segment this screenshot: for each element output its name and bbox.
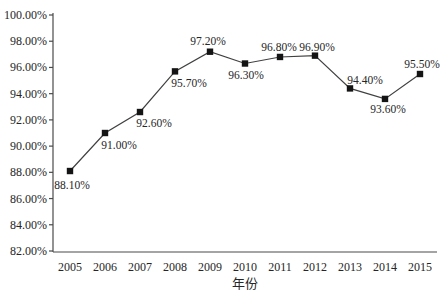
- data-point-marker: [67, 168, 73, 174]
- data-point-marker: [417, 71, 423, 77]
- data-point-label: 92.60%: [136, 117, 172, 129]
- y-tick-label: 98.00%: [10, 34, 47, 48]
- chart-canvas: 100.00%98.00%96.00%94.00%92.00%90.00%88.…: [0, 0, 448, 295]
- data-point-label: 96.90%: [299, 41, 335, 53]
- data-point-marker: [137, 109, 143, 115]
- y-tick-label: 82.00%: [10, 244, 47, 258]
- y-tick-label: 90.00%: [10, 139, 47, 153]
- x-tick-label: 2012: [303, 260, 327, 274]
- data-point-label: 88.10%: [54, 179, 90, 191]
- y-tick-label: 88.00%: [10, 165, 47, 179]
- data-point-label: 93.60%: [370, 103, 406, 115]
- line-chart-figure: 100.00%98.00%96.00%94.00%92.00%90.00%88.…: [0, 0, 448, 295]
- y-tick-label: 92.00%: [10, 113, 47, 127]
- x-tick-label: 2007: [128, 260, 152, 274]
- data-point-marker: [207, 49, 213, 55]
- data-point-label: 95.50%: [404, 58, 440, 70]
- data-point-label: 96.30%: [228, 69, 264, 81]
- data-point-label: 94.40%: [347, 74, 383, 86]
- y-tick-label: 86.00%: [10, 192, 47, 206]
- data-point-marker: [312, 52, 318, 58]
- data-point-marker: [277, 54, 283, 60]
- y-tick-label: 100.00%: [4, 8, 47, 22]
- x-tick-label: 2010: [233, 260, 257, 274]
- y-tick-label: 94.00%: [10, 87, 47, 101]
- data-point-label: 95.70%: [171, 77, 207, 89]
- x-tick-label: 2011: [268, 260, 292, 274]
- x-tick-label: 2005: [58, 260, 82, 274]
- data-point-marker: [172, 68, 178, 74]
- x-tick-label: 2015: [408, 260, 432, 274]
- data-point-marker: [242, 60, 248, 66]
- x-tick-label: 2013: [338, 260, 362, 274]
- data-point-label: 96.80%: [261, 41, 297, 53]
- x-tick-label: 2009: [198, 260, 222, 274]
- x-tick-label: 2008: [163, 260, 187, 274]
- data-point-marker: [382, 96, 388, 102]
- data-point-label: 97.20%: [190, 35, 226, 47]
- x-tick-label: 2006: [93, 260, 117, 274]
- x-axis-title: 年份: [53, 273, 437, 292]
- data-point-marker: [102, 130, 108, 136]
- y-tick-label: 84.00%: [10, 218, 47, 232]
- x-tick-label: 2014: [373, 260, 397, 274]
- y-tick-label: 96.00%: [10, 60, 47, 74]
- data-point-label: 91.00%: [101, 139, 137, 151]
